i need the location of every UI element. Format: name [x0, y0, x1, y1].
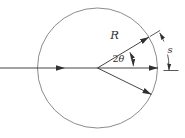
- radius-label: R: [109, 28, 119, 42]
- scattering-diagram: R 2θ s: [0, 0, 185, 138]
- scattering-diagram-canvas: R 2θ s: [0, 0, 185, 138]
- theta-symbol: θ: [119, 53, 125, 64]
- lower-scattered-ray: [98, 68, 152, 95]
- arc-length-label: s: [167, 44, 172, 55]
- angle-arc: [130, 52, 134, 66]
- dimension-tick-top: [150, 30, 160, 36]
- scattering-angle-label: 2θ: [113, 53, 125, 64]
